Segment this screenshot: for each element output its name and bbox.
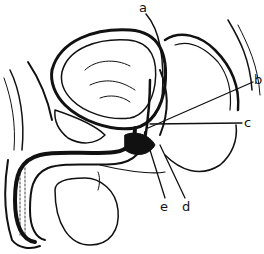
label-e: e [160,200,168,213]
label-b: b [254,73,262,86]
label-d: d [182,200,190,213]
anatomical-diagram: a b c e d [0,0,264,254]
label-a: a [139,1,147,14]
label-c: c [244,116,251,129]
diagram-drawing [0,0,264,254]
